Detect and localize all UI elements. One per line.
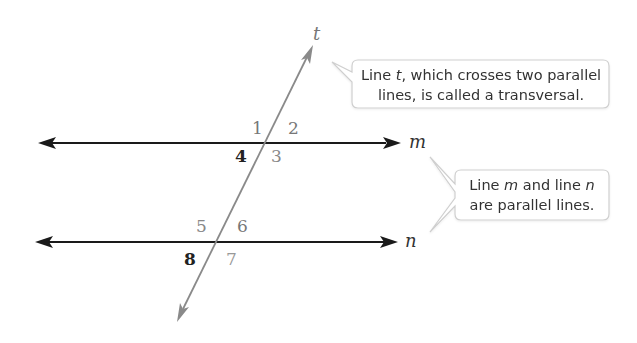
angle-5-label: 5 <box>196 216 207 236</box>
line-m: m <box>38 131 426 152</box>
callout-line-1: Line m and line n <box>469 177 594 193</box>
line-t-label: t <box>313 23 321 44</box>
arrowhead-up-icon <box>301 45 313 64</box>
callout-line-2: are parallel lines. <box>470 197 595 213</box>
callout-line-1: Line t, which crosses two parallel <box>361 67 601 83</box>
line-n-label: n <box>405 230 417 251</box>
angle-7-label: 7 <box>226 249 237 269</box>
angle-1-label: 1 <box>252 118 263 138</box>
angle-2-label: 2 <box>288 118 299 138</box>
line-n: n <box>35 230 417 251</box>
line-m-label: m <box>409 131 426 152</box>
line-t-transversal: t <box>177 23 321 322</box>
angle-6-label: 6 <box>237 216 248 236</box>
arrowhead-down-icon <box>177 303 189 322</box>
callout-bubble <box>430 157 609 232</box>
callout-line-2: lines, is called a transversal. <box>378 87 584 103</box>
transversal-callout: Line t, which crosses two parallel lines… <box>332 60 609 108</box>
parallel-callout: Line m and line n are parallel lines. <box>430 157 609 232</box>
angle-8-label: 8 <box>184 249 196 269</box>
parallel-lines-diagram: m n t 1 2 3 4 5 6 7 8 Line t, which cros… <box>0 0 637 343</box>
angle-4-label: 4 <box>235 146 247 166</box>
angle-3-label: 3 <box>271 146 282 166</box>
